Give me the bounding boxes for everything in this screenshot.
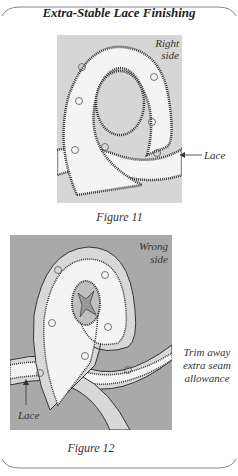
trim-away-label: Trim away extra seam allowance xyxy=(176,346,238,385)
trim-line-2: extra seam xyxy=(176,359,238,372)
bottom-bracket-line xyxy=(0,456,238,476)
figure-12-caption: Figure 12 xyxy=(10,441,172,456)
figure-12-illustration: Wrong side Lace xyxy=(10,235,172,430)
trim-line-1: Trim away xyxy=(176,346,238,359)
trim-line-3: allowance xyxy=(176,372,238,385)
svg-text:side: side xyxy=(150,253,168,265)
figure-11-caption: Figure 11 xyxy=(57,210,182,225)
figure-11-illustration: Right side xyxy=(57,35,182,203)
diagram-title: Extra-Stable Lace Finishing xyxy=(0,5,238,21)
svg-text:side: side xyxy=(161,49,179,61)
lace-arrow xyxy=(178,150,203,160)
lace-label-fig11: Lace xyxy=(204,149,225,162)
right-side-label: Right xyxy=(154,37,180,49)
wrong-side-label: Wrong xyxy=(139,240,168,252)
lace-label-fig12: Lace xyxy=(17,409,40,421)
